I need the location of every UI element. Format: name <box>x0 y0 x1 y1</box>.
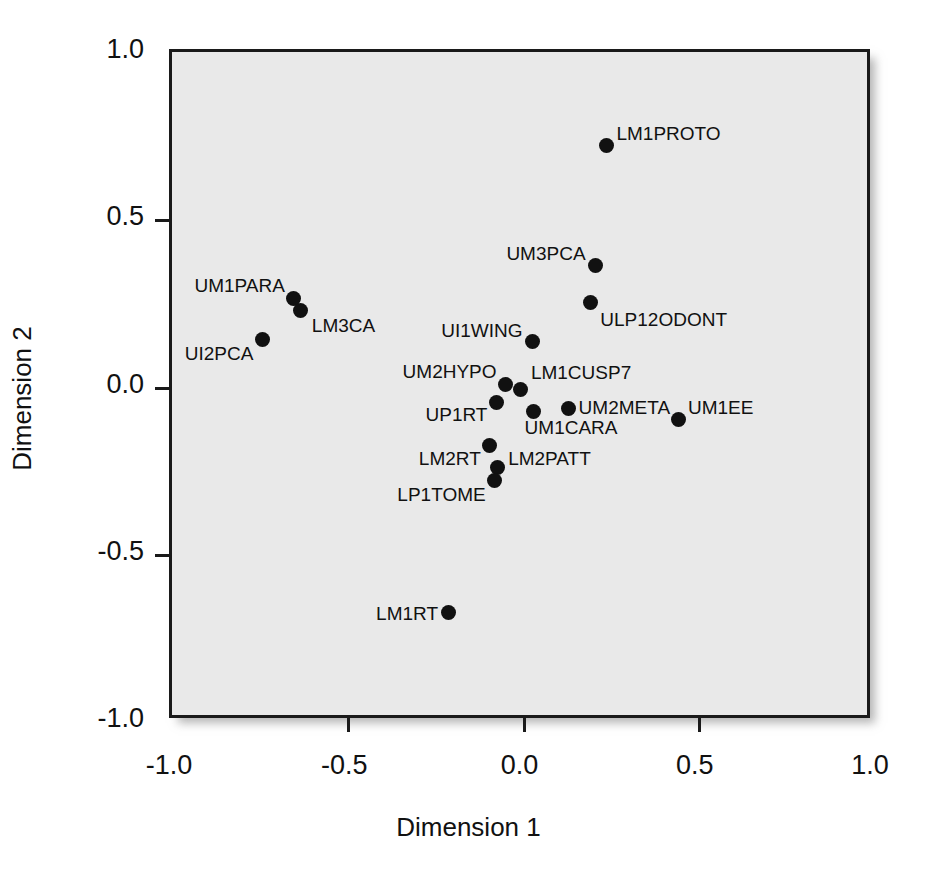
data-point-label: LM1PROTO <box>616 124 720 143</box>
data-point <box>599 138 614 153</box>
data-point-label: UI1WING <box>441 320 522 339</box>
x-axis-tick <box>523 715 526 732</box>
scatter-plot-figure: LM1PROTOUM3PCAULP12ODONTUM1PARALM3CAUI2P… <box>0 0 937 878</box>
y-axis-tick-label: 0.0 <box>24 368 144 399</box>
data-point-label: LM2PATT <box>508 448 591 467</box>
data-point-label: UM3PCA <box>506 244 585 263</box>
data-point-label: UM2META <box>579 397 670 416</box>
data-point <box>482 438 497 453</box>
data-point <box>513 382 528 397</box>
data-point-label: UM1EE <box>688 397 753 416</box>
x-axis-tick <box>347 715 350 732</box>
y-axis-tick <box>155 387 172 390</box>
y-axis-tick-label: 0.5 <box>24 201 144 232</box>
x-axis-tick-label: 0.0 <box>460 750 580 781</box>
data-point-label: LM3CA <box>312 315 375 334</box>
data-point-label: UM1CARA <box>525 418 618 437</box>
data-point-label: ULP12ODONT <box>600 309 727 328</box>
plot-area: LM1PROTOUM3PCAULP12ODONTUM1PARALM3CAUI2P… <box>172 52 867 715</box>
data-point-label: UM1PARA <box>194 276 284 295</box>
data-point-label: UP1RT <box>425 405 487 424</box>
data-point <box>498 377 513 392</box>
data-point <box>441 605 456 620</box>
data-point <box>671 412 686 427</box>
data-point <box>561 401 576 416</box>
data-point-label: UI2PCA <box>185 343 254 362</box>
x-axis-title: Dimension 1 <box>0 812 937 843</box>
data-point <box>489 395 504 410</box>
data-point <box>525 334 540 349</box>
plot-frame: LM1PROTOUM3PCAULP12ODONTUM1PARALM3CAUI2P… <box>169 49 870 718</box>
data-point <box>293 303 308 318</box>
y-axis-title: Dimension 2 <box>7 239 38 559</box>
y-axis-tick-label: -0.5 <box>24 535 144 566</box>
y-axis-tick <box>155 219 172 222</box>
x-axis-tick <box>698 715 701 732</box>
y-axis-tick-label: -1.0 <box>24 703 144 734</box>
data-point-label: LM2RT <box>419 448 481 467</box>
data-point <box>255 332 270 347</box>
data-point <box>487 473 502 488</box>
data-point <box>583 295 598 310</box>
y-axis-tick <box>155 554 172 557</box>
x-axis-tick-label: 0.5 <box>635 750 755 781</box>
y-axis-tick-label: 1.0 <box>24 34 144 65</box>
data-point-label: LP1TOME <box>397 484 485 503</box>
x-axis-tick-label: 1.0 <box>810 750 930 781</box>
data-point-label: LM1CUSP7 <box>531 363 631 382</box>
x-axis-tick-label: -1.0 <box>109 750 229 781</box>
data-point-label: LM1RT <box>376 603 438 622</box>
data-point-label: UM2HYPO <box>403 362 497 381</box>
data-point <box>588 258 603 273</box>
x-axis-tick-label: -0.5 <box>284 750 404 781</box>
